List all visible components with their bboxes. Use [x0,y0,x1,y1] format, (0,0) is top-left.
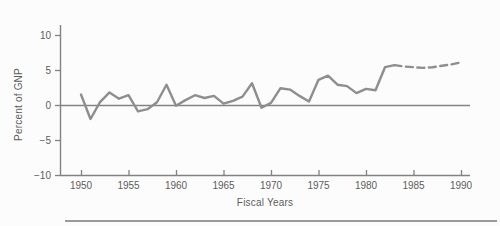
y-tick-label: 0 [45,100,51,111]
x-tick-label: 1970 [260,180,283,191]
x-tick-label: 1960 [165,180,188,191]
bottom-rule [65,220,497,222]
series-solid-actual-line [81,65,395,119]
x-tick-label: 1950 [70,180,93,191]
chart-svg: 1050−5−101950195519601965197019751980198… [0,0,500,226]
y-tick-label: −5 [40,135,52,146]
x-tick-label: 1955 [117,180,140,191]
series-dashed-projection-line [395,62,462,68]
deficit-percent-gnp-figure: Percent of GNP 1050−5−101950195519601965… [0,0,500,226]
x-axis-title: Fiscal Years [60,197,470,208]
y-tick-label: 10 [40,30,52,41]
x-tick-label: 1990 [450,180,473,191]
x-tick-label: 1975 [307,180,330,191]
y-tick-label: −10 [34,170,51,181]
x-tick-label: 1980 [355,180,378,191]
y-tick-label: 5 [45,65,51,76]
x-tick-label: 1985 [402,180,425,191]
x-tick-label: 1965 [212,180,235,191]
